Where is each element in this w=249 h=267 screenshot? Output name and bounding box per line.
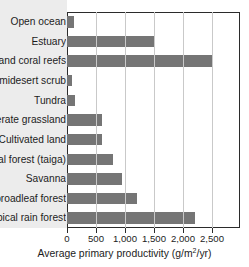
bar-label: Cultivated land — [0, 130, 66, 150]
bar-label: Estuary — [0, 32, 66, 52]
bar-label: Tundra — [0, 91, 66, 111]
gridline — [212, 12, 213, 228]
bar-label: Boreal forest (taiga) — [0, 150, 66, 170]
bar — [67, 173, 122, 185]
bar-label: Tropical rain forest — [0, 208, 66, 228]
x-tick-label: 2,500 — [192, 233, 232, 244]
bar — [67, 36, 155, 48]
bar-label: Savanna — [0, 169, 66, 189]
bar — [67, 55, 212, 67]
bar — [67, 154, 113, 166]
x-axis-title-text-before: Average primary productivity (g/m — [37, 248, 192, 259]
bar-label: Temperate grassland — [0, 110, 66, 130]
bar-label: Desert and semidesert scrub — [0, 71, 66, 91]
bar-label: Temperate deciduous broadleaf forest — [0, 189, 66, 209]
x-axis-title-text-after: /yr) — [197, 248, 212, 259]
bar — [67, 16, 74, 28]
bar — [67, 95, 75, 107]
bar-chart-figure: Open ocean Estuary Swamps and coral reef… — [0, 0, 249, 267]
bar — [67, 193, 137, 205]
bar — [67, 75, 72, 87]
bar — [67, 212, 195, 224]
gridline — [125, 12, 126, 228]
bar-label: Open ocean — [0, 12, 66, 32]
bar-label: Swamps and coral reefs — [0, 51, 66, 71]
x-axis-title: Average primary productivity (g/m2/yr) — [0, 247, 249, 259]
gridline — [183, 12, 184, 228]
gridline — [96, 12, 97, 228]
gridline — [154, 12, 155, 228]
